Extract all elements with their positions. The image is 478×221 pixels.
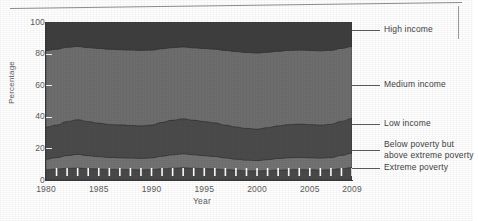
year-tick-mark: [98, 168, 100, 176]
x-tick-label-1985: 1985: [77, 184, 121, 194]
x-tick-label-1980: 1980: [24, 184, 68, 194]
x-axis-title: Year: [157, 196, 247, 206]
year-tick-mark: [130, 168, 132, 176]
year-tick-mark: [298, 168, 300, 176]
x-tick-label-2009: 2009: [330, 184, 374, 194]
x-tick-label-1990: 1990: [130, 184, 174, 194]
year-tick-mark: [267, 168, 269, 176]
year-tick-mark: [172, 168, 174, 176]
legend-leader-line: [352, 30, 380, 31]
year-tick-mark: [109, 168, 111, 176]
y-tick-mark: [46, 117, 52, 118]
legend-label: Medium income: [384, 79, 478, 90]
year-tick-mark: [309, 168, 311, 176]
stacked-area-paths: [46, 22, 352, 180]
legend-leader-line: [352, 85, 380, 86]
legend-label: Low income: [384, 118, 478, 129]
year-tick-mark: [56, 168, 58, 176]
year-tick-mark: [214, 168, 216, 176]
area-band-medium-income: [46, 46, 352, 129]
y-tick-100: 100: [0, 18, 45, 27]
year-tick-mark: [119, 168, 121, 176]
y-tick-mark: [46, 85, 52, 86]
year-tick-mark: [351, 168, 352, 176]
year-tick-mark: [151, 168, 153, 176]
year-tick-mark: [246, 168, 248, 176]
year-tick-mark: [140, 168, 142, 176]
year-tick-mark: [277, 168, 279, 176]
year-tick-mark: [288, 168, 290, 176]
year-tick-mark: [320, 168, 322, 176]
y-axis-line: [45, 22, 46, 181]
legend-leader-line: [352, 150, 380, 151]
legend-leader-line: [352, 168, 380, 169]
year-tick-mark: [203, 168, 205, 176]
y-tick-20: 20: [0, 144, 45, 153]
year-tick-mark: [77, 168, 79, 176]
x-tick-label-1995: 1995: [182, 184, 226, 194]
plot-area: [46, 22, 352, 180]
area-band-low-income: [46, 118, 352, 160]
year-tick-mark: [182, 168, 184, 176]
x-axis-line: [45, 180, 353, 181]
year-tick-mark: [225, 168, 227, 176]
scan-artifact-horizontal-rule: [10, 2, 462, 9]
x-tick-label-2005: 2005: [288, 184, 332, 194]
y-tick-label: 100: [9, 18, 45, 27]
y-tick-mark: [46, 148, 52, 149]
year-tick-mark: [193, 168, 195, 176]
year-tick-mark: [87, 168, 89, 176]
legend-label: Below poverty but above extreme poverty: [384, 139, 478, 160]
legend-label: High income: [384, 24, 478, 35]
y-tick-mark: [46, 54, 52, 55]
year-tick-mark: [256, 168, 258, 176]
y-tick-label: 20: [9, 144, 45, 153]
y-axis-title: Percentage: [7, 48, 16, 118]
year-tick-mark: [330, 168, 332, 176]
year-tick-mark: [235, 168, 237, 176]
legend-label: Extreme poverty: [384, 162, 478, 173]
year-tick-mark: [341, 168, 343, 176]
x-tick-label-2000: 2000: [235, 184, 279, 194]
year-tick-mark: [66, 168, 68, 176]
year-tick-mark: [161, 168, 163, 176]
legend-leader-line: [352, 124, 380, 125]
